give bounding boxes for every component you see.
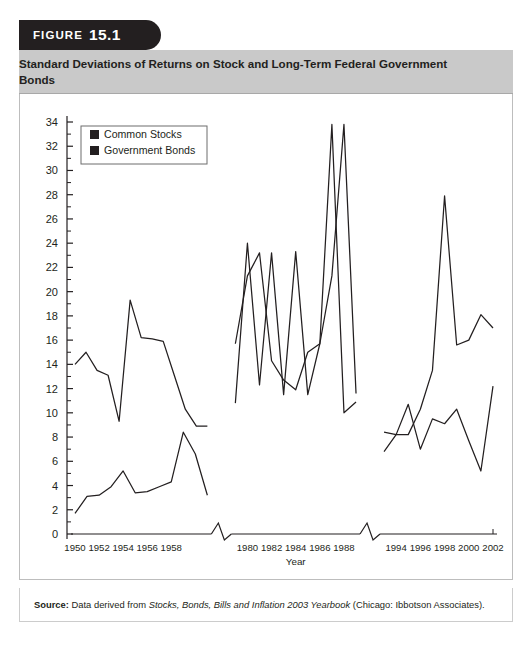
data-series-line — [75, 300, 207, 426]
figure-container: FIGURE 15.1 Standard Deviations of Retur… — [0, 0, 532, 645]
y-axis-tick-label: 26 — [46, 213, 58, 225]
y-axis-tick-label: 8 — [52, 431, 58, 443]
x-axis-tick-label: 1952 — [88, 542, 109, 553]
x-axis-tick-label: 1984 — [285, 542, 307, 553]
chart-svg: 0246810121416182022242628303234195019521… — [19, 94, 513, 580]
figure-number-tab: FIGURE 15.1 — [19, 20, 161, 50]
x-axis-break-mark — [211, 523, 231, 540]
figure-label: FIGURE — [33, 29, 83, 41]
source-book-title: Stocks, Bonds, Bills and Inflation 2003 … — [149, 599, 351, 610]
x-axis-tick-label: 1980 — [237, 542, 258, 553]
source-tail: (Chicago: Ibbotson Associates). — [353, 599, 485, 610]
y-axis-tick-label: 20 — [46, 286, 58, 298]
y-axis-tick-label: 24 — [46, 237, 58, 249]
x-axis-break-mark — [360, 523, 380, 540]
data-series-line — [235, 124, 356, 412]
y-axis-tick-label: 30 — [46, 164, 58, 176]
y-axis-tick-label: 18 — [46, 310, 58, 322]
x-axis-tick-label: 1996 — [410, 542, 431, 553]
y-axis-tick-label: 28 — [46, 189, 58, 201]
x-axis-tick-label: 1956 — [137, 542, 158, 553]
y-axis-tick-label: 6 — [52, 455, 58, 467]
x-axis-tick-label: 1958 — [161, 542, 182, 553]
source-note-box: Source: Data derived from Stocks, Bonds,… — [19, 588, 513, 622]
legend-swatch — [90, 146, 99, 155]
data-series-line — [75, 432, 207, 513]
y-axis-tick-label: 0 — [52, 528, 58, 540]
x-axis-tick-label: 1988 — [333, 542, 354, 553]
y-axis-tick-label: 32 — [46, 140, 58, 152]
y-axis-tick-label: 34 — [46, 116, 58, 128]
legend-swatch — [90, 130, 99, 139]
x-axis-tick-label: 1954 — [112, 542, 134, 553]
y-axis-tick-label: 16 — [46, 334, 58, 346]
source-note: Source: Data derived from Stocks, Bonds,… — [34, 599, 485, 611]
y-axis-tick-label: 4 — [52, 480, 58, 492]
figure-number: 15.1 — [89, 26, 121, 44]
y-axis-tick-label: 22 — [46, 261, 58, 273]
data-series-line — [384, 196, 493, 452]
x-axis-tick-label: 1950 — [64, 542, 85, 553]
x-axis-tick-label: 1982 — [261, 542, 282, 553]
x-axis-tick-label: 1998 — [434, 542, 455, 553]
x-axis-tick-label: 2000 — [458, 542, 479, 553]
y-axis-tick-label: 2 — [52, 504, 58, 516]
y-axis-tick-label: 10 — [46, 407, 58, 419]
data-series-line — [384, 386, 493, 471]
source-label: Source: — [34, 599, 69, 610]
x-axis-title: Year — [286, 556, 307, 567]
x-axis-tick-label: 1994 — [385, 542, 407, 553]
y-axis-tick-label: 12 — [46, 383, 58, 395]
y-axis-tick-label: 14 — [46, 358, 58, 370]
legend-label: Government Bonds — [104, 144, 195, 156]
source-lead: Data derived from — [72, 599, 147, 610]
x-axis-tick-label: 2002 — [482, 542, 503, 553]
x-axis-tick-label: 1986 — [309, 542, 330, 553]
figure-title: Standard Deviations of Returns on Stock … — [19, 56, 481, 87]
legend-label: Common Stocks — [104, 128, 182, 140]
